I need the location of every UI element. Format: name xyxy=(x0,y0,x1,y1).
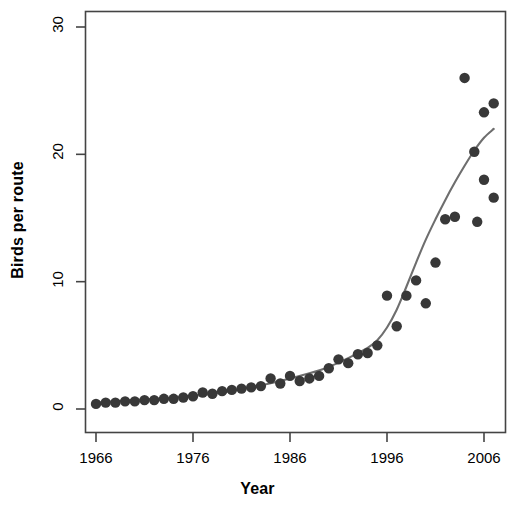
y-tick-label: 10 xyxy=(42,271,72,288)
y-tick-label: 20 xyxy=(42,143,72,160)
data-point xyxy=(401,290,411,300)
y-tick-label: 0 xyxy=(42,398,72,415)
data-point xyxy=(489,98,499,108)
data-point xyxy=(110,397,120,407)
data-point xyxy=(246,382,256,392)
data-point xyxy=(120,396,130,406)
data-point xyxy=(314,371,324,381)
data-point xyxy=(101,397,111,407)
data-point xyxy=(159,394,169,404)
data-point xyxy=(333,354,343,364)
data-point xyxy=(168,394,178,404)
data-point xyxy=(382,290,392,300)
data-point xyxy=(188,391,198,401)
x-tick-label: 1966 xyxy=(66,449,126,466)
data-point xyxy=(372,340,382,350)
data-point xyxy=(91,399,101,409)
data-point xyxy=(421,298,431,308)
x-axis-ticks xyxy=(96,433,484,443)
data-point xyxy=(324,363,334,373)
data-point xyxy=(256,381,266,391)
data-point xyxy=(479,175,489,185)
y-tick-label-text: 20 xyxy=(49,143,66,160)
data-point xyxy=(343,358,353,368)
data-point xyxy=(304,373,314,383)
x-axis-title: Year xyxy=(0,480,515,498)
data-point xyxy=(362,348,372,358)
data-point xyxy=(178,392,188,402)
y-axis-title-text: Birds per route xyxy=(9,161,27,279)
data-point xyxy=(207,389,217,399)
y-axis-ticks xyxy=(76,27,86,409)
data-point xyxy=(489,192,499,202)
data-point xyxy=(469,147,479,157)
data-point xyxy=(130,396,140,406)
x-tick-label: 1976 xyxy=(163,449,223,466)
data-point xyxy=(198,387,208,397)
data-point xyxy=(440,214,450,224)
y-tick-label-text: 10 xyxy=(49,271,66,288)
data-point xyxy=(411,275,421,285)
scatter-plot-canvas xyxy=(0,0,515,510)
data-point-markers xyxy=(91,73,499,409)
data-point xyxy=(450,212,460,222)
x-tick-label: 1986 xyxy=(260,449,320,466)
data-point xyxy=(295,376,305,386)
data-point xyxy=(149,395,159,405)
data-point xyxy=(275,378,285,388)
x-tick-label: 2006 xyxy=(454,449,514,466)
y-tick-label: 30 xyxy=(42,16,72,33)
data-point xyxy=(472,217,482,227)
data-point xyxy=(479,107,489,117)
data-point xyxy=(353,349,363,359)
y-tick-label-text: 0 xyxy=(49,402,66,410)
data-point xyxy=(285,371,295,381)
data-point xyxy=(227,385,237,395)
data-point xyxy=(459,73,469,83)
data-point xyxy=(430,257,440,267)
chart-figure: 0102030 19661976198619962006 Birds per r… xyxy=(0,0,515,510)
data-point xyxy=(392,321,402,331)
data-point xyxy=(139,395,149,405)
x-tick-label: 1996 xyxy=(357,449,417,466)
data-point xyxy=(265,373,275,383)
y-tick-label-text: 30 xyxy=(49,16,66,33)
data-point xyxy=(217,386,227,396)
data-point xyxy=(236,383,246,393)
y-axis-title: Birds per route xyxy=(0,0,36,440)
